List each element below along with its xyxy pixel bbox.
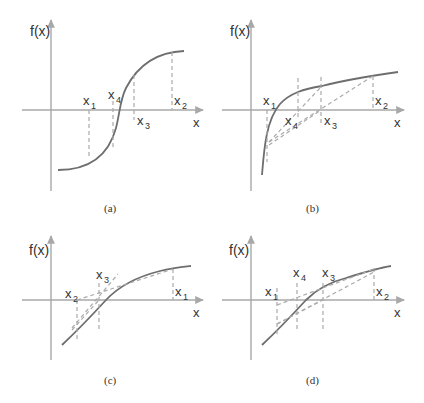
svg-text:x: x [324, 113, 331, 128]
label-x2: x2 [174, 93, 187, 111]
x-axis-label: x [193, 305, 200, 320]
label-x2: x2 [65, 286, 78, 304]
svg-text:x: x [174, 93, 181, 108]
svg-text:x: x [108, 87, 115, 102]
label-x3: x3 [137, 113, 150, 131]
svg-text:3: 3 [332, 121, 337, 131]
svg-text:x: x [175, 284, 182, 299]
label-x3: x3 [324, 113, 337, 131]
svg-text:x: x [322, 265, 329, 280]
caption-c: (c) [104, 374, 117, 387]
svg-text:4: 4 [116, 95, 121, 105]
label-x1: x1 [83, 93, 96, 111]
secant-line-2 [72, 274, 118, 328]
label-x4: x4 [293, 265, 306, 283]
svg-text:x: x [263, 93, 270, 108]
caption-b: (b) [306, 202, 319, 215]
y-axis-label: f(x) [230, 23, 250, 39]
panel-a: f(x) x x1 x4 x3 x2 (a) [22, 20, 203, 215]
svg-text:x: x [285, 113, 292, 128]
secant-line-3 [277, 300, 323, 324]
y-axis-label: f(x) [229, 242, 249, 258]
svg-text:1: 1 [273, 292, 278, 302]
panel-d: f(x) x x1 x4 x3 x2 (d) [222, 236, 404, 387]
panel-c: f(x) x x2 x3 x1 (c) [22, 236, 203, 387]
svg-text:x: x [83, 93, 90, 108]
x-axis-label: x [394, 115, 401, 130]
svg-text:2: 2 [73, 294, 78, 304]
svg-text:4: 4 [301, 273, 306, 283]
y-axis-label: f(x) [30, 23, 50, 39]
svg-text:x: x [265, 284, 272, 299]
svg-text:x: x [65, 286, 72, 301]
secant-line-1 [77, 269, 173, 300]
secant-line-3 [72, 300, 99, 330]
svg-text:x: x [137, 113, 144, 128]
svg-text:4: 4 [293, 121, 298, 131]
svg-text:x: x [293, 265, 300, 280]
y-axis-label: f(x) [29, 242, 49, 258]
svg-text:1: 1 [183, 292, 188, 302]
svg-text:2: 2 [384, 292, 389, 302]
svg-text:2: 2 [182, 101, 187, 111]
root-figure: f(x) x x1 x4 x3 x2 (a) f(x) x x1 x4 x3 x… [0, 0, 424, 403]
svg-text:1: 1 [271, 101, 276, 111]
label-x3: x3 [322, 265, 335, 283]
svg-text:2: 2 [383, 101, 388, 111]
function-curve [62, 266, 191, 345]
panel-b: f(x) x x1 x4 x3 x2 (b) [222, 20, 404, 215]
label-x4: x4 [285, 113, 298, 131]
svg-text:1: 1 [91, 101, 96, 111]
x-axis-label: x [394, 305, 401, 320]
label-x1: x1 [263, 93, 276, 111]
x-axis-label: x [193, 115, 200, 130]
svg-text:3: 3 [145, 121, 150, 131]
svg-text:3: 3 [104, 275, 109, 285]
label-x4: x4 [108, 87, 121, 105]
svg-text:x: x [375, 93, 382, 108]
svg-text:x: x [96, 267, 103, 282]
label-x3: x3 [96, 267, 109, 285]
svg-text:3: 3 [330, 273, 335, 283]
svg-text:x: x [376, 284, 383, 299]
caption-a: (a) [104, 202, 117, 215]
label-x2: x2 [375, 93, 388, 111]
caption-d: (d) [306, 374, 319, 387]
